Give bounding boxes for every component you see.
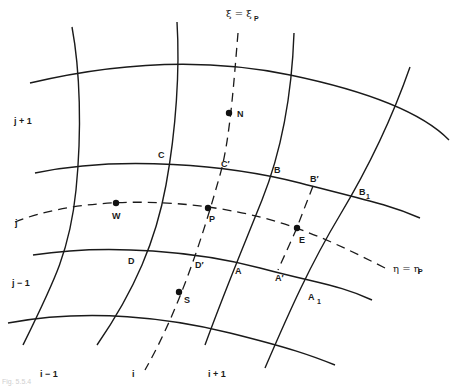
label-a1: A (308, 292, 315, 302)
grid-line-bottom (8, 316, 335, 365)
label-col-i: i (132, 369, 135, 379)
label-row-j-minus-1: j − 1 (11, 278, 30, 288)
label-xi-p: ξ = ξ (226, 8, 252, 19)
node-w (113, 200, 119, 206)
figure-caption: Fig. 5.5.4 (2, 378, 31, 385)
node-e (294, 225, 300, 231)
label-col-i-minus-1: i − 1 (40, 369, 58, 379)
label-b: B (274, 165, 281, 175)
grid-line-top (30, 64, 449, 140)
label-b1: B (359, 187, 366, 197)
label-eta-p-sub: P (418, 268, 423, 275)
label-a1-sub: 1 (317, 298, 321, 305)
label-b-prime: B′ (310, 174, 319, 184)
grid-line-i (97, 22, 178, 345)
node-s (176, 289, 182, 295)
label-p: P (209, 214, 215, 224)
grid-line-j-minus-half (33, 249, 372, 300)
label-s: S (184, 295, 190, 305)
eta-p-dashed-line (15, 202, 385, 268)
curvilinear-grid-diagram: N W P E S C C′ B B′ B 1 D D′ A A′ A 1 j … (0, 0, 457, 387)
label-b1-sub: 1 (366, 193, 370, 200)
label-c: C (158, 150, 165, 160)
label-row-j: j (14, 218, 18, 228)
label-n: N (237, 109, 244, 119)
grid-line-i-plus-1 (205, 33, 294, 345)
label-w: W (112, 211, 121, 221)
node-n (226, 110, 232, 116)
label-col-i-plus-1: i + 1 (208, 369, 226, 379)
label-a-prime: A′ (275, 273, 284, 283)
label-e: E (299, 235, 305, 245)
label-xi-p-sub: P (254, 15, 259, 22)
label-row-j-plus-1: j + 1 (13, 116, 32, 126)
label-d-prime: D′ (195, 260, 204, 270)
label-a: A (235, 266, 242, 276)
node-p (205, 205, 211, 211)
label-eta-p: η = η (393, 263, 420, 274)
label-c-prime: C′ (221, 159, 230, 169)
label-d: D (128, 256, 135, 266)
